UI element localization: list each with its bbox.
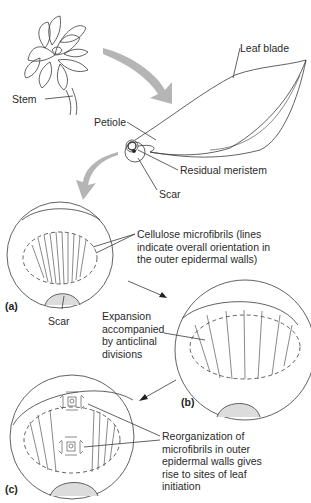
petiole-label: Petiole (94, 116, 126, 129)
expansion-label: Expansion accompanied by anticlinal divi… (102, 310, 164, 360)
scar-label-a: Scar (48, 315, 70, 328)
microfibril-leader-1 (93, 234, 135, 247)
reorg-leader-2 (84, 440, 160, 447)
scar-label-top: Scar (159, 188, 181, 201)
leaf-initiation-site-2 (59, 437, 83, 455)
scar-leader (138, 158, 157, 190)
panel-c-tag: (c) (5, 483, 18, 495)
panel-b-tag: (b) (181, 396, 194, 408)
residual-meristem-label: Residual meristem (180, 164, 267, 177)
panel-c-apex (10, 375, 134, 499)
leaf-blade-label: Leaf blade (240, 42, 289, 55)
curved-arrow-leaf-to-apex (76, 152, 118, 200)
reorg-leader-1 (88, 404, 160, 436)
panel-a-tag: (a) (5, 300, 18, 312)
panel-a-apex (7, 202, 113, 308)
panel-b-apex (175, 280, 311, 420)
petiole-leader (127, 122, 156, 140)
stem-label: Stem (12, 93, 37, 106)
arrow-a-to-b (128, 281, 163, 296)
reorganization-label: Reorganization of microfibrils in outer … (162, 430, 262, 493)
microfibril-leader-2 (96, 234, 135, 253)
microfibrils-label: Cellulose microfibrils (lines indicate o… (137, 228, 270, 266)
curved-arrow-plant-to-leaf (103, 48, 172, 104)
arrow-b-to-c (144, 380, 176, 398)
